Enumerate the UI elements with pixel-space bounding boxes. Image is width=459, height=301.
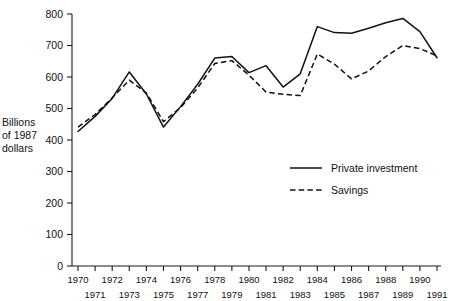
x-axis: 1970197119721973197419751976197719781979… [67, 266, 447, 300]
y-axis: 0100200300400500600700800 [45, 8, 72, 272]
x-axis-tick-label: 1972 [102, 274, 123, 285]
y-axis-tick-label: 200 [45, 197, 63, 209]
x-axis-tick-label: 1977 [187, 289, 208, 300]
x-axis-tick-label: 1975 [153, 289, 174, 300]
y-axis-tick-label: 500 [45, 102, 63, 114]
series-line-private-investment [78, 18, 437, 131]
x-axis-tick-label: 1980 [238, 274, 259, 285]
chart-container: 0100200300400500600700800 19701971197219… [0, 0, 459, 301]
chart-legend: Private investmentSavings [290, 162, 417, 196]
x-axis-tick-label: 1971 [85, 289, 106, 300]
x-axis-tick-label: 1986 [341, 274, 362, 285]
x-axis-tick-label: 1974 [136, 274, 157, 285]
y-axis-tick-label: 400 [45, 134, 63, 146]
y-axis-tick-label: 100 [45, 228, 63, 240]
x-axis-tick-label: 1982 [273, 274, 294, 285]
x-axis-tick-label: 1981 [255, 289, 276, 300]
x-axis-tick-label: 1991 [426, 289, 447, 300]
x-axis-tick-label: 1990 [409, 274, 430, 285]
x-axis-tick-label: 1979 [221, 289, 242, 300]
y-axis-tick-label: 300 [45, 165, 63, 177]
y-axis-tick-label: 0 [57, 260, 63, 272]
y-axis-title-line: dollars [2, 142, 33, 154]
x-axis-tick-label: 1989 [392, 289, 413, 300]
y-axis-tick-label: 600 [45, 71, 63, 83]
series-line-savings [78, 46, 437, 128]
x-axis-tick-label: 1973 [119, 289, 140, 300]
legend-label: Savings [331, 184, 368, 196]
x-axis-tick-label: 1978 [204, 274, 225, 285]
x-axis-tick-label: 1970 [67, 274, 88, 285]
x-axis-tick-label: 1985 [324, 289, 345, 300]
y-axis-title-line: Billions [2, 116, 35, 128]
y-axis-title: Billionsof 1987dollars [2, 116, 37, 154]
legend-label: Private investment [331, 162, 417, 174]
y-axis-tick-label: 800 [45, 8, 63, 20]
x-axis-tick-label: 1988 [375, 274, 396, 285]
data-series-group [78, 18, 437, 131]
x-axis-tick-label: 1983 [290, 289, 311, 300]
y-axis-title-line: of 1987 [2, 129, 37, 141]
x-axis-tick-label: 1987 [358, 289, 379, 300]
y-axis-tick-label: 700 [45, 39, 63, 51]
x-axis-tick-label: 1976 [170, 274, 191, 285]
line-chart: 0100200300400500600700800 19701971197219… [0, 0, 459, 301]
x-axis-tick-label: 1984 [307, 274, 328, 285]
